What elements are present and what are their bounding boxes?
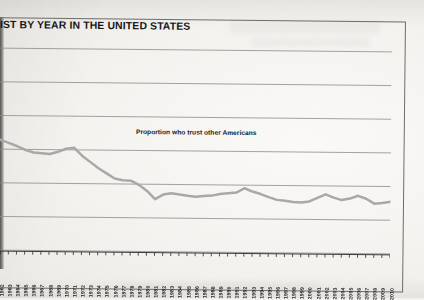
x-axis-label: 1994 (259, 286, 264, 298)
x-axis-label: 2010 (389, 288, 394, 300)
x-axis-label: 1982 (162, 286, 167, 298)
x-axis-label: 1977 (121, 285, 126, 297)
gridline (0, 48, 392, 52)
x-axis-label: 1965 (24, 284, 29, 296)
x-axis-label: 1966 (32, 284, 37, 296)
x-axis-label: 1991 (235, 286, 240, 298)
x-axis-label: 2009 (381, 288, 386, 300)
x-axis-label: 1972 (81, 285, 86, 297)
x-axis-label: 1964 (16, 284, 21, 296)
x-axis-label: 1979 (137, 285, 142, 297)
x-axis-label: 1962 (0, 284, 5, 296)
x-axis-label: 1985 (186, 286, 191, 298)
x-axis-label: 1981 (154, 285, 159, 297)
x-axis-label: 2005 (349, 287, 354, 299)
x-axis-label: 1996 (275, 287, 280, 299)
x-axis-label: 2004 (340, 287, 345, 299)
x-axis-label: 1993 (251, 286, 256, 298)
page-title: IST BY YEAR IN THE UNITED STATES (0, 19, 191, 32)
x-axis-label: 2007 (365, 287, 370, 299)
x-axis-label: 2001 (316, 287, 321, 299)
x-axis-label: 2002 (324, 287, 329, 299)
gridline (0, 183, 391, 187)
x-axis-label: 2008 (373, 288, 378, 300)
x-axis-label: 1984 (178, 286, 183, 298)
x-axis-label: 1999 (300, 287, 305, 299)
x-axis-label: 1978 (129, 285, 134, 297)
x-axis-label: 2003 (332, 287, 337, 299)
x-axis-label: 1995 (267, 287, 272, 299)
x-axis-label: 2006 (357, 287, 362, 299)
x-axis-label: 1975 (105, 285, 110, 297)
x-axis-label: 1997 (284, 287, 289, 299)
x-axis-label: 1970 (64, 285, 69, 297)
x-axis-label: 1986 (194, 286, 199, 298)
line-chart (0, 44, 392, 264)
gridline (0, 115, 391, 119)
x-axis-label: 1974 (97, 285, 102, 297)
x-axis-label: 2000 (308, 287, 313, 299)
x-axis-label: 1969 (56, 285, 61, 297)
x-axis-label: 1987 (202, 286, 207, 298)
gridline (0, 82, 392, 86)
x-axis-label: 1963 (8, 284, 13, 296)
x-axis-label: 1989 (219, 286, 224, 298)
gridline (0, 216, 390, 220)
chart-annotation: Proportion who trust other Americans (136, 128, 257, 136)
trust-line-series (0, 134, 391, 204)
x-axis-label: 1980 (146, 285, 151, 297)
x-axis-label: 1983 (170, 286, 175, 298)
x-axis-label: 1971 (72, 285, 77, 297)
x-axis-label: 1967 (40, 284, 45, 296)
x-axis-label: 1976 (113, 285, 118, 297)
x-axis-label: 1988 (211, 286, 216, 298)
x-axis-label: 1998 (292, 287, 297, 299)
x-axis-label: 1990 (227, 286, 232, 298)
x-axis-labels: 1960196119621963196419651966196719681969… (0, 250, 392, 300)
chart-svg (0, 44, 392, 264)
x-axis-label: 1973 (89, 285, 94, 297)
x-axis-label: 1968 (48, 284, 53, 296)
x-axis-label: 1992 (243, 286, 248, 298)
